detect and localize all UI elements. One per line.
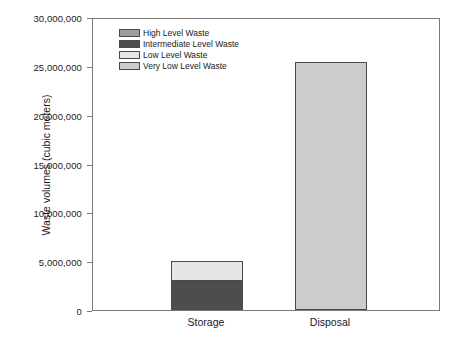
bar-segment-low-level-waste[interactable] bbox=[171, 261, 243, 281]
y-tick-label: 30,000,000 bbox=[33, 13, 82, 24]
bar-segment-very-low-level-waste[interactable] bbox=[295, 62, 367, 310]
legend: High Level Waste Intermediate Level Wast… bbox=[119, 28, 239, 71]
bar-storage[interactable] bbox=[171, 261, 243, 310]
waste-volumes-chart: 30,000,000 25,000,000 20,000,000 15,000,… bbox=[0, 0, 462, 340]
plot-area: High Level Waste Intermediate Level Wast… bbox=[92, 18, 440, 311]
y-tick-mark bbox=[87, 311, 92, 312]
legend-swatch-intermediate-level-waste bbox=[119, 40, 140, 48]
legend-item-intermediate-level-waste[interactable]: Intermediate Level Waste bbox=[119, 39, 239, 49]
legend-label: High Level Waste bbox=[143, 29, 209, 38]
legend-label: Low Level Waste bbox=[143, 51, 207, 60]
y-tick-label: 0 bbox=[77, 306, 82, 317]
x-tick-label-disposal: Disposal bbox=[310, 316, 350, 328]
legend-swatch-high-level-waste bbox=[119, 29, 140, 37]
legend-item-high-level-waste[interactable]: High Level Waste bbox=[119, 28, 239, 38]
bar-disposal[interactable] bbox=[295, 62, 367, 310]
y-axis-title: Waste volumes (cubic meters) bbox=[40, 45, 52, 285]
legend-item-very-low-level-waste[interactable]: Very Low Level Waste bbox=[119, 61, 239, 71]
legend-swatch-very-low-level-waste bbox=[119, 62, 140, 70]
bar-segment-intermediate-level-waste[interactable] bbox=[171, 281, 243, 310]
legend-label: Intermediate Level Waste bbox=[143, 40, 239, 49]
legend-label: Very Low Level Waste bbox=[143, 62, 227, 71]
legend-item-low-level-waste[interactable]: Low Level Waste bbox=[119, 50, 239, 60]
x-tick-label-storage: Storage bbox=[188, 316, 225, 328]
legend-swatch-low-level-waste bbox=[119, 51, 140, 59]
y-axis-title-container: Waste volumes (cubic meters) bbox=[14, 18, 32, 311]
